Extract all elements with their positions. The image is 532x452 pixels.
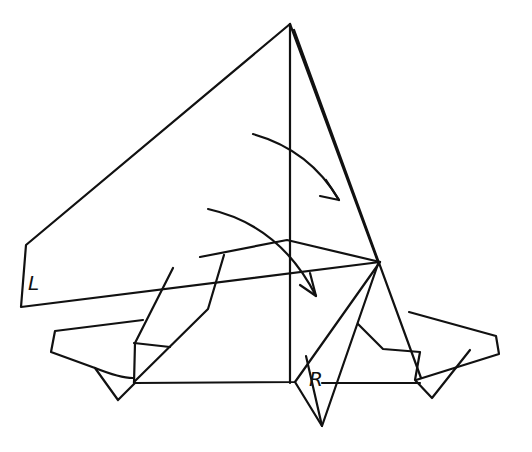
right-lower-flap: [358, 312, 499, 398]
center-body: [135, 240, 420, 426]
fold-arrow-upper: [253, 134, 339, 200]
flap-label-l: L: [28, 271, 39, 295]
right-edges: [290, 24, 421, 378]
left-wing: [51, 320, 143, 400]
origami-diagram: L R: [0, 0, 532, 452]
left-inner-flap: [134, 255, 224, 383]
flap-label-r: R: [309, 367, 323, 391]
